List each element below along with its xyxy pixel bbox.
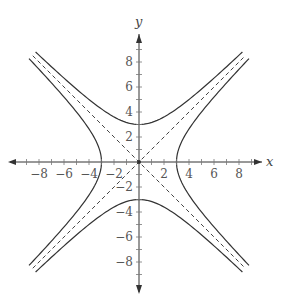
x-tick-label: −8	[30, 167, 48, 181]
x-tick-label: 8	[235, 167, 243, 181]
x-tick-label: 6	[210, 167, 218, 181]
graph-figure: −8−6−4−224688642−2−4−6−8 x y	[0, 0, 289, 304]
origin-dot	[137, 160, 141, 164]
hyperbola-plot: −8−6−4−224688642−2−4−6−8 x y	[0, 0, 289, 304]
x-tick-label: 2	[160, 167, 168, 181]
y-tick-label: 2	[125, 130, 133, 144]
y-tick-label: −2	[115, 180, 133, 194]
x-tick-label: −4	[80, 167, 98, 181]
y-tick-label: 4	[125, 105, 133, 119]
y-axis-arrow-up-icon	[136, 34, 142, 43]
y-tick-label: 6	[125, 80, 133, 94]
y-axis-arrow-down-icon	[136, 285, 142, 294]
x-tick-label: −2	[105, 167, 123, 181]
y-tick-label: −6	[115, 230, 133, 244]
y-axis-label: y	[134, 14, 143, 29]
x-axis-arrow-right-icon	[254, 159, 262, 165]
x-axis-arrow-left-icon	[8, 159, 16, 165]
y-tick-label: −4	[115, 205, 133, 219]
x-tick-label: −6	[55, 167, 73, 181]
y-tick-label: 8	[125, 55, 133, 69]
x-axis-label: x	[266, 154, 274, 169]
y-tick-label: −8	[115, 255, 133, 269]
x-tick-label: 4	[185, 167, 193, 181]
